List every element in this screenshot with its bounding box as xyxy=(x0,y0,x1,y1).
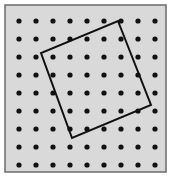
lattice-dot xyxy=(67,72,72,77)
lattice-dot xyxy=(135,126,140,131)
lattice-dot xyxy=(50,72,55,77)
lattice-dot xyxy=(67,162,72,167)
lattice-dot xyxy=(84,162,89,167)
lattice-dot xyxy=(84,18,89,23)
lattice-dot xyxy=(152,18,157,23)
lattice-dot xyxy=(67,144,72,149)
lattice-dot xyxy=(16,72,21,77)
lattice-dot xyxy=(33,54,38,59)
lattice-dot xyxy=(33,18,38,23)
lattice-dot xyxy=(16,108,21,113)
lattice-dot xyxy=(33,162,38,167)
lattice-dot xyxy=(33,36,38,41)
lattice-dot xyxy=(152,90,157,95)
lattice-dot xyxy=(16,126,21,131)
lattice-dot xyxy=(101,90,106,95)
lattice-dot xyxy=(152,54,157,59)
geoboard-figure xyxy=(0,0,173,178)
lattice-dot xyxy=(67,18,72,23)
lattice-dot xyxy=(101,108,106,113)
lattice-dot xyxy=(84,144,89,149)
lattice-dot xyxy=(101,144,106,149)
lattice-dot xyxy=(101,126,106,131)
lattice-dot xyxy=(50,54,55,59)
lattice-dot xyxy=(135,54,140,59)
lattice-dot xyxy=(16,90,21,95)
lattice-dot xyxy=(135,162,140,167)
lattice-dot xyxy=(101,36,106,41)
lattice-dot xyxy=(118,108,123,113)
lattice-dot xyxy=(101,18,106,23)
lattice-dot xyxy=(101,162,106,167)
lattice-dot xyxy=(135,144,140,149)
lattice-dot xyxy=(50,126,55,131)
lattice-dot xyxy=(16,144,21,149)
lattice-dot xyxy=(50,162,55,167)
lattice-dot xyxy=(84,36,89,41)
lattice-dot xyxy=(152,126,157,131)
lattice-dot xyxy=(16,162,21,167)
lattice-dot xyxy=(118,126,123,131)
lattice-dot xyxy=(152,72,157,77)
lattice-dot xyxy=(118,54,123,59)
lattice-dot xyxy=(33,144,38,149)
lattice-dot xyxy=(84,90,89,95)
lattice-dot xyxy=(101,72,106,77)
figure-container xyxy=(0,0,173,178)
lattice-dot xyxy=(50,18,55,23)
lattice-dot xyxy=(152,162,157,167)
lattice-dot xyxy=(16,54,21,59)
lattice-dot xyxy=(16,36,21,41)
lattice-dot xyxy=(118,162,123,167)
lattice-dot xyxy=(50,144,55,149)
lattice-dot xyxy=(152,144,157,149)
lattice-dot xyxy=(67,108,72,113)
lattice-dot xyxy=(67,90,72,95)
dot-lattice xyxy=(16,18,157,167)
lattice-dot xyxy=(135,36,140,41)
lattice-dot xyxy=(33,126,38,131)
lattice-dot xyxy=(118,72,123,77)
lattice-dot xyxy=(50,108,55,113)
lattice-dot xyxy=(118,90,123,95)
lattice-dot xyxy=(33,90,38,95)
lattice-dot xyxy=(16,18,21,23)
lattice-dot xyxy=(33,72,38,77)
lattice-dot xyxy=(152,36,157,41)
lattice-dot xyxy=(101,54,106,59)
lattice-dot xyxy=(118,144,123,149)
lattice-dot xyxy=(50,36,55,41)
lattice-dot xyxy=(84,54,89,59)
lattice-dot xyxy=(84,72,89,77)
lattice-dot xyxy=(135,90,140,95)
lattice-dot xyxy=(33,108,38,113)
lattice-dot xyxy=(135,18,140,23)
lattice-dot xyxy=(152,108,157,113)
lattice-dot xyxy=(84,108,89,113)
lattice-dot xyxy=(67,54,72,59)
lattice-dot xyxy=(118,36,123,41)
